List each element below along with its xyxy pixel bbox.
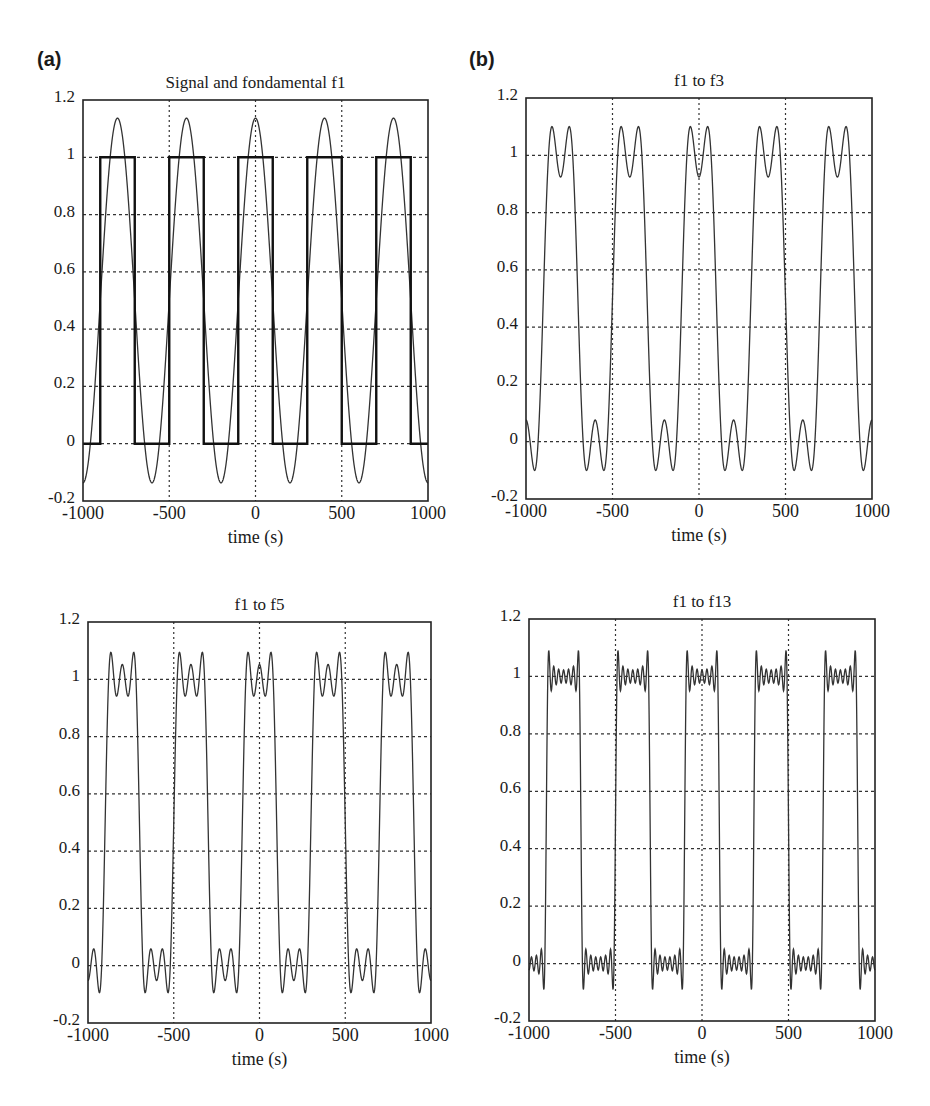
y-tick-label: 0: [471, 951, 521, 971]
y-tick-label: 0: [468, 429, 518, 449]
x-tick-label: 500: [772, 501, 799, 522]
y-tick-label: 0.6: [468, 257, 518, 277]
plot-area: [526, 98, 872, 499]
y-tick-label: 0.2: [468, 371, 518, 391]
y-tick-label: 0.8: [471, 721, 521, 741]
y-tick-label: 0.2: [471, 893, 521, 913]
y-tick-label: 1.2: [471, 606, 521, 626]
x-tick-label: -1000: [67, 1025, 109, 1046]
y-tick-label: 1.2: [25, 87, 75, 107]
x-tick-label: 500: [775, 1023, 802, 1044]
x-tick-label: 0: [695, 501, 704, 522]
y-tick-label: 1: [471, 663, 521, 683]
y-tick-label: 0.2: [30, 895, 80, 915]
panel-label-b: (b): [469, 48, 495, 71]
x-axis-label: time (s): [674, 1047, 730, 1068]
y-tick-label: 0.6: [30, 781, 80, 801]
plot-area: [529, 619, 875, 1021]
y-tick-label: 1: [25, 144, 75, 164]
y-tick-label: 0.6: [25, 259, 75, 279]
plot-title: f1 to f5: [234, 595, 284, 615]
x-tick-label: 500: [332, 1025, 359, 1046]
y-tick-label: 0.4: [25, 316, 75, 336]
x-tick-label: 500: [328, 503, 355, 524]
x-axis-label: time (s): [228, 527, 284, 548]
y-tick-label: 0: [25, 431, 75, 451]
y-tick-label: 0.6: [471, 778, 521, 798]
x-tick-label: -500: [596, 501, 629, 522]
y-tick-label: 0: [30, 953, 80, 973]
x-tick-label: 1000: [854, 501, 890, 522]
x-tick-label: 0: [698, 1023, 707, 1044]
x-tick-label: 1000: [413, 1025, 449, 1046]
plot-title: f1 to f13: [673, 592, 732, 612]
x-tick-label: 1000: [410, 503, 446, 524]
plot-area: [88, 622, 431, 1023]
x-tick-label: -500: [599, 1023, 632, 1044]
y-tick-label: 0.8: [468, 200, 518, 220]
y-tick-label: 1.2: [468, 85, 518, 105]
y-tick-label: 0.4: [30, 838, 80, 858]
y-tick-label: 0.8: [25, 202, 75, 222]
x-tick-label: -500: [157, 1025, 190, 1046]
y-tick-label: 0.4: [468, 314, 518, 334]
x-axis-label: time (s): [671, 525, 727, 546]
y-tick-label: 1: [468, 142, 518, 162]
y-tick-label: 0.8: [30, 724, 80, 744]
y-tick-label: 0.2: [25, 373, 75, 393]
x-tick-label: 0: [251, 503, 260, 524]
plot-title: Signal and fondamental f1: [166, 73, 346, 93]
x-tick-label: -1000: [505, 501, 547, 522]
plot-area: [83, 100, 428, 501]
x-axis-label: time (s): [232, 1049, 288, 1070]
y-tick-label: 0.4: [471, 836, 521, 856]
y-tick-label: 1: [30, 666, 80, 686]
y-tick-label: 1.2: [30, 609, 80, 629]
x-tick-label: -1000: [62, 503, 104, 524]
plot-title: f1 to f3: [674, 71, 724, 91]
x-tick-label: -500: [153, 503, 186, 524]
x-tick-label: 0: [255, 1025, 264, 1046]
panel-label-a: (a): [37, 48, 61, 71]
x-tick-label: -1000: [508, 1023, 550, 1044]
x-tick-label: 1000: [857, 1023, 893, 1044]
